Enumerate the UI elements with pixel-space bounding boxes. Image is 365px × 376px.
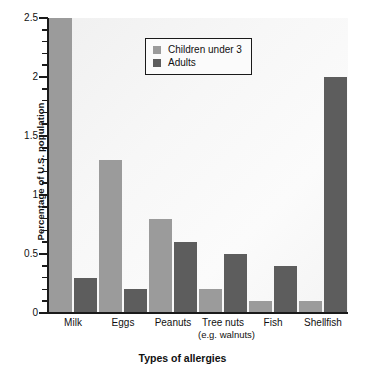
y-tick-label: 0.5 (24, 249, 38, 259)
bar (49, 18, 72, 313)
y-tick-minor (42, 88, 48, 90)
y-tick-minor (42, 123, 48, 125)
y-tick-minor (42, 147, 48, 149)
y-tick-label: 1 (32, 190, 38, 200)
y-tick-major (39, 253, 48, 255)
y-tick-major (39, 17, 48, 19)
legend-item-children: Children under 3 (153, 43, 242, 56)
legend-item-adults: Adults (153, 56, 242, 69)
bar (74, 278, 97, 313)
legend-label-children: Children under 3 (168, 44, 242, 55)
y-tick-minor (42, 289, 48, 291)
x-category-label: Eggs (98, 317, 148, 329)
y-tick-minor (42, 182, 48, 184)
y-tick-minor (42, 159, 48, 161)
y-tick-minor (42, 230, 48, 232)
legend-swatch-icon-children (153, 46, 161, 54)
bar (149, 219, 172, 313)
y-tick-minor (42, 300, 48, 302)
y-tick-minor (42, 218, 48, 220)
y-tick-minor (42, 29, 48, 31)
y-tick-label: 1.5 (24, 131, 38, 141)
y-tick-minor (42, 277, 48, 279)
y-tick-minor (42, 171, 48, 173)
legend: Children under 3 Adults (145, 38, 252, 75)
x-axis-line (47, 312, 348, 314)
legend-swatch-icon-adults (153, 59, 161, 67)
x-category-label: Shellfish (298, 317, 348, 329)
legend-label-adults: Adults (168, 57, 196, 68)
bar (174, 242, 197, 313)
y-tick-major (39, 135, 48, 137)
bar (124, 289, 147, 313)
y-tick-minor (42, 241, 48, 243)
y-tick-label: 2.5 (24, 13, 38, 23)
bar (99, 160, 122, 313)
y-tick-minor (42, 206, 48, 208)
y-tick-label: 0 (32, 308, 38, 318)
y-tick-minor (42, 112, 48, 114)
x-category-label: Tree nuts(e.g. walnuts) (198, 317, 248, 340)
y-axis-line (47, 18, 49, 314)
allergy-bar-chart: Percentage of U.S. population 00.511.522… (0, 0, 365, 376)
y-tick-label: 2 (32, 72, 38, 82)
y-tick-minor (42, 41, 48, 43)
y-tick-major (39, 312, 48, 314)
y-tick-minor (42, 265, 48, 267)
x-axis-title: Types of allergies (0, 352, 365, 364)
bar (224, 254, 247, 313)
bar (324, 77, 347, 313)
bar (199, 289, 222, 313)
x-category-label: Fish (248, 317, 298, 329)
y-tick-minor (42, 64, 48, 66)
y-tick-minor (42, 53, 48, 55)
x-category-label: Milk (48, 317, 98, 329)
bar (274, 266, 297, 313)
y-tick-minor (42, 100, 48, 102)
x-category-label: Peanuts (148, 317, 198, 329)
y-tick-major (39, 194, 48, 196)
y-tick-major (39, 76, 48, 78)
